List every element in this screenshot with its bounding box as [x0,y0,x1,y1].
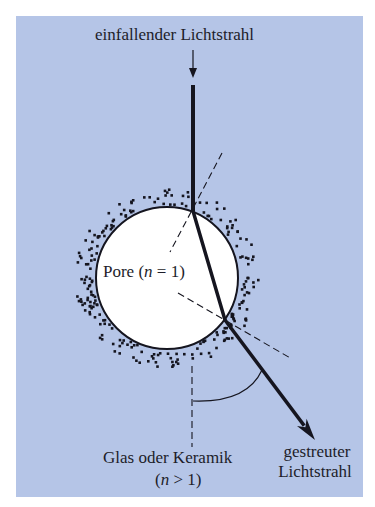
grain-dot [171,361,174,364]
grain-dot [110,228,113,231]
grain-dot [119,339,122,342]
grain-dot [236,245,239,248]
material-label-var: n [161,470,170,489]
grain-dot [238,303,241,306]
grain-dot [90,291,93,294]
grain-dot [108,323,111,326]
grain-dot [89,313,92,316]
grain-dot [147,360,150,363]
grain-dot [118,203,121,206]
grain-dot [250,243,253,246]
grain-dot [181,202,184,205]
grain-dot [232,313,235,316]
grain-dot [96,245,99,248]
grain-dot [102,319,105,322]
grain-dot [114,350,117,353]
grain-dot [89,267,92,270]
grain-dot [132,210,135,213]
grain-dot [133,344,136,347]
grain-dot [243,325,246,328]
grain-dot [93,258,96,261]
pore-label-suffix: = 1) [153,262,185,281]
grain-dot [97,235,100,238]
grain-dot [236,230,239,233]
grain-dot [153,201,156,204]
grain-dot [233,320,236,323]
grain-dot [119,345,122,348]
grain-dot [216,334,219,337]
grain-dot [108,212,111,215]
grain-dot [252,281,255,284]
grain-dot [88,230,91,233]
grain-dot [227,233,230,236]
grain-dot [118,352,121,355]
grain-dot [96,303,99,306]
grain-dot [91,241,94,244]
grain-dot [170,357,173,360]
pore-label-var: n [144,262,153,281]
grain-dot [122,339,125,342]
grain-dot [183,353,186,356]
material-label-suffix: > 1) [169,470,201,489]
grain-dot [89,277,92,280]
grain-dot [91,281,94,284]
grain-dot [215,331,218,334]
grain-dot [80,278,83,281]
grain-dot [132,356,135,359]
grain-dot [216,201,219,204]
grain-dot [101,231,104,234]
grain-dot [231,227,234,230]
grain-dot [182,195,185,198]
grain-dot [213,338,216,341]
grain-dot [246,277,249,280]
grain-dot [79,255,82,258]
grain-dot [231,337,234,340]
grain-dot [78,252,81,255]
grain-dot [238,307,241,310]
grain-dot [222,330,225,333]
grain-dot [245,280,248,283]
grain-dot [205,202,208,205]
grain-dot [121,342,124,345]
grain-dot [173,203,176,206]
grain-dot [153,353,156,356]
grain-dot [175,361,178,364]
grain-dot [98,313,101,316]
grain-dot [223,207,226,210]
grain-dot [199,201,202,204]
grain-dot [113,219,116,222]
grain-dot [92,306,95,309]
grain-dot [224,339,227,342]
grain-dot [91,254,94,257]
grain-dot [252,286,255,289]
grain-dot [105,227,108,230]
grain-dot [85,276,88,279]
grain-dot [246,308,249,311]
grain-dot [103,323,106,326]
diagram-stage: einfallender Lichtstrahl Pore (n = 1) Gl… [0,0,375,507]
grain-dot [245,238,248,241]
grain-dot [203,211,206,214]
grain-dot [81,304,84,307]
grain-dot [199,342,202,345]
grain-dot [157,197,160,200]
grain-dot [241,255,244,258]
grain-dot [243,294,246,297]
grain-dot [136,344,139,347]
grain-dot [243,283,246,286]
grain-dot [130,201,133,204]
grain-dot [76,295,79,298]
pore-label: Pore (n = 1) [103,262,185,282]
grain-dot [80,298,83,301]
grain-dot [156,365,159,368]
grain-dot [129,209,132,212]
grain-dot [112,343,115,346]
incident-ray-label: einfallender Lichtstrahl [95,25,254,45]
grain-dot [227,231,230,234]
grain-dot [103,235,106,238]
grain-dot [170,194,173,197]
grain-dot [101,338,104,341]
grain-dot [239,237,242,240]
grain-dot [106,225,109,228]
grain-dot [164,194,167,197]
